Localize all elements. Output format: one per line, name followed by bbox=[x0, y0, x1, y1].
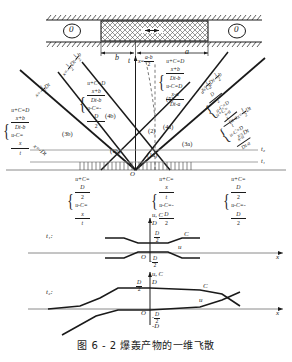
t1-tick-D: D bbox=[152, 220, 157, 227]
time-line-label-t1: t₁ bbox=[261, 158, 265, 164]
time-line-label-t2: t₂ bbox=[261, 146, 265, 152]
t1-curve-u-label: u bbox=[178, 244, 182, 251]
t1-tick-neg-half-D: -D2 bbox=[150, 256, 158, 268]
t2-origin-label: O bbox=[141, 310, 146, 317]
t1-tick-half-D: D2 bbox=[154, 231, 160, 243]
region-label-5: (5) bbox=[166, 96, 173, 102]
t1-row-label: t₁: bbox=[46, 233, 53, 240]
t2-y-axis-label: u, C bbox=[152, 271, 163, 278]
center-line-label: x=a-b2 bbox=[138, 55, 154, 67]
t-axis-label: t bbox=[128, 57, 130, 65]
region-label-1b: (1b) bbox=[110, 148, 121, 154]
dimension-b-label: b bbox=[115, 54, 119, 62]
tube-left-end-label: 0 bbox=[69, 25, 74, 34]
region-4b-equations: { u+C=Dx+bDt-b u-C=-D2 bbox=[78, 79, 105, 130]
charge-double-arrow bbox=[141, 28, 163, 33]
region-label-3b: (3b) bbox=[62, 131, 73, 137]
xt-origin-label: O bbox=[130, 171, 135, 178]
region-2-equations: { u+C=D2 u-C=-D2 bbox=[222, 175, 246, 227]
t2-curve-C-label: C bbox=[203, 283, 208, 290]
t2-tick-D: D bbox=[152, 279, 157, 286]
region-label-3a: (3a) bbox=[182, 141, 192, 147]
t2-tick-neg-D: -D bbox=[152, 323, 159, 330]
dimension-a-label: a bbox=[185, 48, 189, 56]
t1-origin-label: O bbox=[141, 254, 146, 261]
t1-curve-C-label: C bbox=[184, 231, 189, 238]
t2-row-label: t₂: bbox=[46, 289, 53, 296]
region-label-2: (2) bbox=[148, 128, 155, 134]
t1-x-axis-label: x bbox=[276, 254, 279, 261]
region-label-4a: (4a) bbox=[163, 124, 173, 130]
figure-caption: 图 6 - 2 爆轰产物的一维飞散 bbox=[0, 337, 292, 352]
region-3b-equations: { u+C=Dx+bDt-b u-C=xt bbox=[2, 106, 29, 157]
t2-x-axis-label: x bbox=[276, 310, 279, 317]
t2-tick-half-D: D2 bbox=[136, 280, 142, 293]
region-label-4b: (4b) bbox=[105, 113, 116, 119]
region-label-1a: (1a) bbox=[147, 152, 157, 158]
figure-detonation-dispersion: 0 0 b a t x=a-b2 { u+C=Dx+bDt-b u-C=Dx-a… bbox=[0, 0, 292, 362]
t2-curve-u-label: u bbox=[199, 297, 203, 304]
tube-right-end-label: 0 bbox=[234, 25, 239, 34]
region-1b-equations: { u+C=D2 u-C=xt bbox=[66, 175, 90, 227]
t1-y-axis-label: u, C bbox=[152, 212, 163, 219]
